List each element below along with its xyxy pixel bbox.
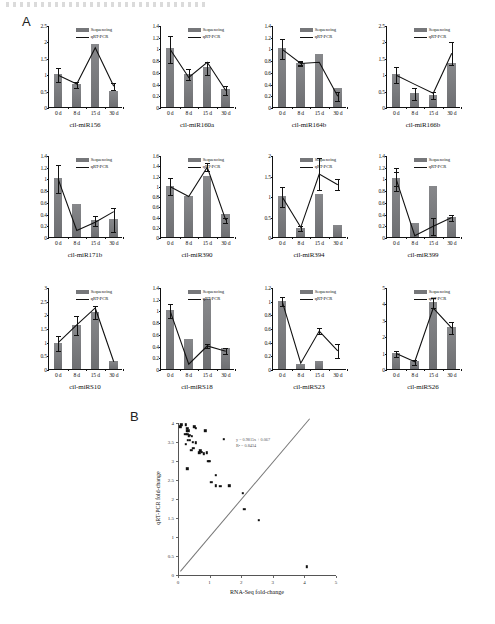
legend-label-sequencing: Sequencing <box>203 290 224 295</box>
x-axis-tick-label: 30 d <box>447 240 456 246</box>
legend-entry-sequencing: Sequencing <box>300 290 336 295</box>
qrtpcr-error-bar <box>338 92 339 101</box>
qrtpcr-error-bar <box>338 344 339 358</box>
qrtpcr-error-cap <box>223 354 228 355</box>
qrtpcr-error-cap <box>335 358 340 359</box>
sequencing-error-bar <box>170 178 171 195</box>
legend-label-sequencing: Sequencing <box>429 158 450 163</box>
bar-chart-plot-area: 00.20.40.60.811.21.40 d8 d15 d30 dSequen… <box>160 288 234 370</box>
qrtpcr-error-cap <box>223 348 228 349</box>
x-axis-tick-label: 15 d <box>315 110 324 116</box>
scatter-point <box>210 481 212 483</box>
sequencing-error-cap <box>412 88 417 89</box>
qrtpcr-error-cap <box>223 218 228 219</box>
x-axis-tick-mark <box>347 107 348 109</box>
x-axis-tick-label: 0 d <box>279 240 285 246</box>
scatter-point <box>215 474 217 476</box>
x-axis-tick-label: 0 d <box>167 110 173 116</box>
legend-entry-sequencing: Sequencing <box>188 28 224 33</box>
bar-chart-plot-area: 00.20.40.60.811.21.41.60 d8 d15 d30 dSeq… <box>160 156 234 238</box>
sequencing-error-cap <box>280 39 285 40</box>
bar-chart-plot-area: 00.20.40.60.811.21.40 d8 d15 d30 dSequen… <box>160 26 234 108</box>
qrtpcr-error-bar <box>433 218 434 236</box>
sequencing-error-cap <box>186 69 191 70</box>
chart-caption: cil-miRS23 <box>252 383 366 391</box>
sequencing-error-cap <box>56 165 61 166</box>
legend-entry-sequencing: Sequencing <box>414 158 450 163</box>
chart-legend: SequencingqRT-PCR <box>414 28 450 42</box>
legend-entry-qrtpcr: qRT-PCR <box>414 297 450 302</box>
legend-label-qrtpcr: qRT-PCR <box>429 297 447 302</box>
y-axis-tick-label: 4 <box>154 421 174 426</box>
scatter-point <box>180 423 182 425</box>
qrtpcr-error-cap <box>223 223 228 224</box>
bar-chart-plot-area: 00.511.522.530 d8 d15 d30 dSequencingqRT… <box>48 288 122 370</box>
x-axis-tick-label: 0 d <box>55 110 61 116</box>
scatter-point <box>223 438 225 440</box>
scatter-point <box>219 485 221 487</box>
x-axis-tick-mark <box>461 237 462 239</box>
sequencing-swatch <box>414 158 427 162</box>
x-axis-tick-label: 0 d <box>279 110 285 116</box>
legend-label-qrtpcr: qRT-PCR <box>203 35 221 40</box>
chart-legend: SequencingqRT-PCR <box>300 28 336 42</box>
y-axis-tick-mark <box>159 108 161 109</box>
sequencing-error-bar <box>95 216 96 227</box>
scatter-point <box>190 449 192 451</box>
legend-entry-sequencing: Sequencing <box>76 28 112 33</box>
qrtpcr-swatch <box>76 37 89 38</box>
sequencing-error-bar <box>77 316 78 335</box>
regression-annotation: y = 0.9815x + 0.067R² = 0.8434 <box>236 437 270 450</box>
sequencing-error-cap <box>394 357 399 358</box>
chart-caption: cil-miR394 <box>252 251 366 259</box>
chart-legend: SequencingqRT-PCR <box>188 290 224 304</box>
x-axis-tick-label: 8 d <box>74 110 80 116</box>
sequencing-error-cap <box>394 168 399 169</box>
chart-caption: cil-miR399 <box>366 251 480 259</box>
legend-label-qrtpcr: qRT-PCR <box>429 35 447 40</box>
scatter-point <box>184 443 186 445</box>
sequencing-error-bar <box>396 67 397 83</box>
y-axis-tick-mark <box>385 238 387 239</box>
qrtpcr-swatch <box>76 299 89 300</box>
x-axis-tick-mark <box>235 369 236 371</box>
sequencing-error-bar <box>189 69 190 81</box>
x-axis-tick-mark <box>235 107 236 109</box>
sequencing-error-cap <box>449 221 454 222</box>
qrtpcr-error-cap <box>431 235 436 236</box>
panel-a-bar-charts: 00.511.522.50 d8 d15 d30 dSequencingqRT-… <box>0 8 495 403</box>
x-axis-tick-label: 30 d <box>333 110 342 116</box>
qrtpcr-error-cap <box>449 65 454 66</box>
x-axis-tick-label: 8 d <box>186 110 192 116</box>
sequencing-error-cap <box>111 232 116 233</box>
sequencing-error-bar <box>58 68 59 82</box>
bar-chart-plot-area: 00.20.40.60.811.21.40 d8 d15 d30 dSequen… <box>272 26 346 108</box>
x-axis-tick-label: 30 d <box>447 372 456 378</box>
sequencing-error-bar <box>433 92 434 100</box>
x-axis-tick-label: 30 d <box>109 240 118 246</box>
sequencing-error-cap <box>412 100 417 101</box>
panel-b-scatter-plot: B01234500.511.522.533.54y = 0.9815x + 0.… <box>120 405 370 620</box>
sequencing-error-cap <box>449 334 454 335</box>
sequencing-error-cap <box>412 365 417 366</box>
sequencing-error-bar <box>282 39 283 59</box>
legend-entry-qrtpcr: qRT-PCR <box>300 165 336 170</box>
bar-chart-plot-area: 00.511.522.50 d8 d15 d30 dSequencingqRT-… <box>48 26 122 108</box>
sequencing-error-cap <box>93 216 98 217</box>
y-axis-tick-mark <box>271 370 273 371</box>
qrtpcr-error-bar <box>452 42 453 65</box>
chart-legend: SequencingqRT-PCR <box>414 290 450 304</box>
legend-entry-sequencing: Sequencing <box>188 290 224 295</box>
qrtpcr-error-cap <box>298 65 303 66</box>
r-squared-value: R² = 0.8434 <box>236 443 270 449</box>
sequencing-swatch <box>188 290 201 294</box>
x-axis-tick-mark <box>336 576 337 578</box>
chart-caption: cil-miR160a <box>140 121 254 129</box>
x-axis-tick-label: 8 d <box>412 110 418 116</box>
chart-legend: SequencingqRT-PCR <box>300 158 336 172</box>
scatter-point <box>208 460 210 462</box>
x-axis-tick-label: 8 d <box>412 372 418 378</box>
qrtpcr-error-cap <box>335 344 340 345</box>
qrtpcr-error-cap <box>394 172 399 173</box>
chart-legend: SequencingqRT-PCR <box>414 158 450 172</box>
